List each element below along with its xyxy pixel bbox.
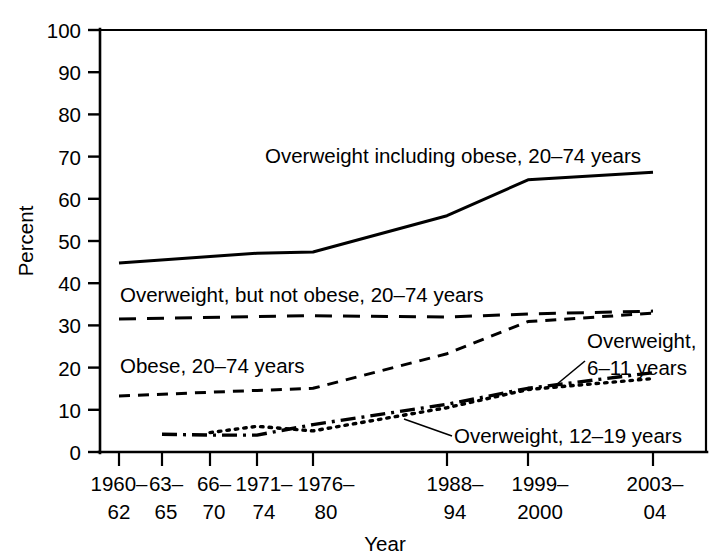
y-tick-label: 80 xyxy=(58,103,81,126)
y-axis-tick-labels: 100 90 80 70 60 50 40 30 20 10 0 xyxy=(47,19,81,464)
series-annotations: Overweight including obese, 20–74 years … xyxy=(120,144,696,447)
x-tick-label-line2: 2000 xyxy=(517,500,563,523)
plot-frame xyxy=(99,29,707,453)
x-tick-label-line1: 2003– xyxy=(626,472,684,495)
x-tick-label-line1: 1976– xyxy=(297,472,355,495)
y-axis-title: Percent xyxy=(14,205,37,276)
x-axis-tick-labels: 1960– 62 63– 65 66– 70 1971– 74 1976– 80… xyxy=(90,472,684,523)
y-tick-label: 90 xyxy=(58,61,81,84)
x-tick-label-line1: 66– xyxy=(197,472,232,495)
y-tick-label: 10 xyxy=(58,399,81,422)
x-tick-label-line2: 62 xyxy=(108,500,131,523)
leader-line-overweight-12-19 xyxy=(404,419,452,436)
label-overweight-12-19: Overweight, 12–19 years xyxy=(454,424,682,447)
y-tick-label: 30 xyxy=(58,314,81,337)
label-obese: Obese, 20–74 years xyxy=(120,354,305,377)
y-tick-label: 0 xyxy=(70,441,81,464)
y-tick-label: 20 xyxy=(58,357,81,380)
y-tick-label: 50 xyxy=(58,230,81,253)
x-tick-label-line1: 63– xyxy=(149,472,184,495)
x-axis-ticks xyxy=(119,452,653,466)
x-tick-label-line2: 70 xyxy=(203,500,226,523)
y-tick-label: 100 xyxy=(47,19,81,42)
x-tick-label-line2: 74 xyxy=(253,500,276,523)
x-tick-label-line2: 65 xyxy=(155,500,178,523)
x-tick-label-line1: 1971– xyxy=(235,472,293,495)
x-tick-label-line1: 1960– xyxy=(90,472,148,495)
x-tick-label-line1: 1999– xyxy=(511,472,569,495)
label-overweight-not-obese: Overweight, but not obese, 20–74 years xyxy=(120,283,484,306)
x-tick-label-line1: 1988– xyxy=(426,472,484,495)
series-overweight-including-obese xyxy=(119,172,653,263)
y-tick-label: 40 xyxy=(58,272,81,295)
label-overweight-6-11-line2: 6–11 years xyxy=(587,356,687,379)
x-tick-label-line2: 94 xyxy=(444,500,467,523)
x-tick-label-line2: 04 xyxy=(644,500,667,523)
label-overweight-including-obese: Overweight including obese, 20–74 years xyxy=(265,144,641,167)
y-axis-ticks xyxy=(88,30,100,452)
chart-figure: 100 90 80 70 60 50 40 30 20 10 0 Percent xyxy=(0,0,722,560)
obesity-trend-line-chart: 100 90 80 70 60 50 40 30 20 10 0 Percent xyxy=(0,0,722,560)
label-overweight-6-11-line1: Overweight, xyxy=(587,329,696,352)
x-tick-label-line2: 80 xyxy=(315,500,338,523)
x-axis-title: Year xyxy=(364,532,406,555)
y-tick-label: 70 xyxy=(58,146,81,169)
y-tick-label: 60 xyxy=(58,188,81,211)
